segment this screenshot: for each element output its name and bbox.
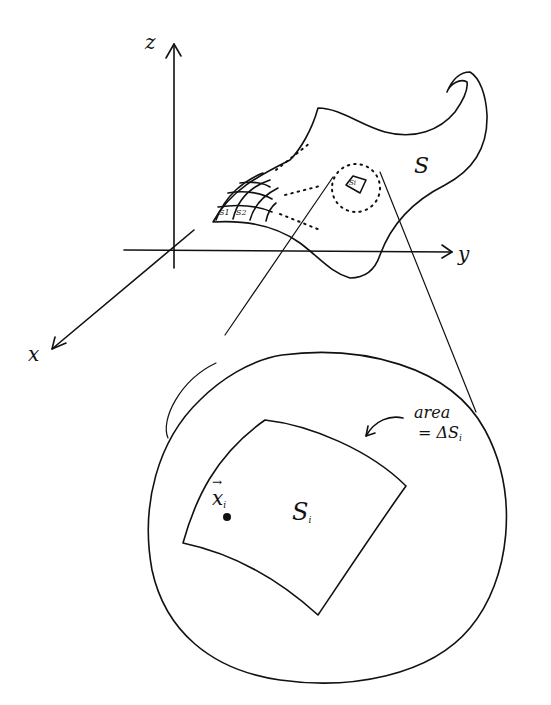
patch-label-s2: S2 (236, 209, 247, 217)
area-annotation-line1: area (414, 405, 450, 421)
magnified-patch-label: Si (292, 500, 311, 525)
highlighted-patch-label: Si (349, 180, 356, 187)
x-axis-label: x (28, 344, 39, 364)
z-axis-label: z (145, 32, 156, 52)
patch-label-s1: S1 (219, 209, 230, 217)
point-label: →xi (212, 488, 226, 510)
surface-s (213, 72, 487, 412)
magnified-view (148, 353, 506, 683)
x-axis (52, 230, 194, 349)
surface-label: S (414, 155, 429, 177)
y-axis-label: y (458, 244, 469, 264)
axes (52, 44, 452, 349)
point-xi (223, 513, 231, 521)
area-annotation-line2: = ΔSi (418, 425, 462, 443)
diagram-canvas (0, 0, 551, 705)
